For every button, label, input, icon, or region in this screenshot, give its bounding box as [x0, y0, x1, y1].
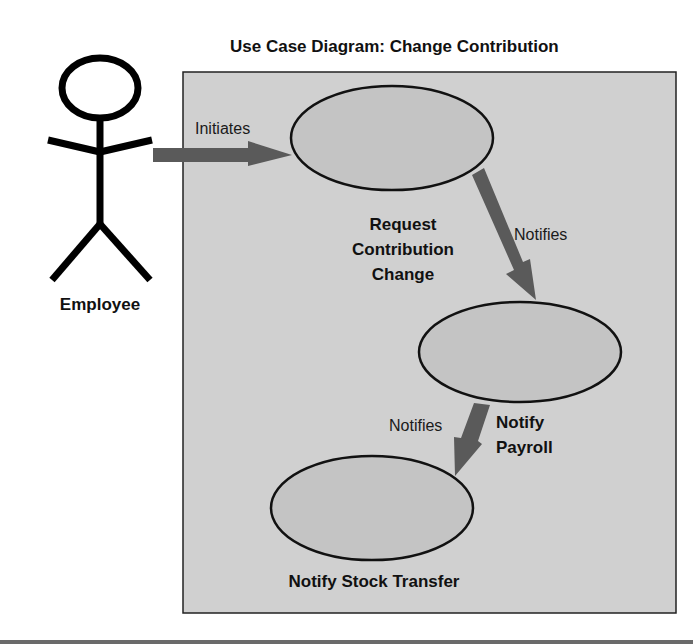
relation-label-notifies-1: Notifies — [514, 226, 567, 243]
svg-text:Change: Change — [372, 265, 434, 284]
bottom-border — [0, 640, 693, 644]
relation-label-notifies-2: Notifies — [389, 417, 442, 434]
relation-label-initiates: Initiates — [195, 120, 250, 137]
stick-figure-icon — [48, 58, 152, 280]
actor-label: Employee — [60, 295, 140, 314]
svg-text:Request: Request — [369, 215, 436, 234]
use-case-label-3: Notify Stock Transfer — [289, 572, 460, 591]
use-case-request-contribution-change[interactable] — [291, 86, 493, 190]
svg-text:Notify Stock Transfer: Notify Stock Transfer — [289, 572, 460, 591]
use-case-notify-stock-transfer[interactable] — [271, 456, 473, 560]
use-case-notify-payroll[interactable] — [419, 302, 621, 402]
svg-text:Notify: Notify — [496, 413, 545, 432]
use-case-diagram: Use Case Diagram: Change Contribution Em… — [0, 0, 693, 644]
diagram-title: Use Case Diagram: Change Contribution — [230, 37, 559, 56]
svg-text:Contribution: Contribution — [352, 240, 454, 259]
svg-text:Payroll: Payroll — [496, 438, 553, 457]
